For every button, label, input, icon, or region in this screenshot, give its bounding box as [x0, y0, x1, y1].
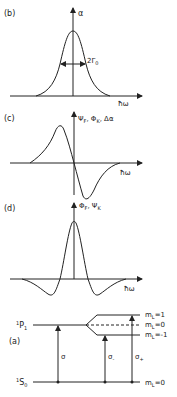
magneto-optic-figure: (b) α ħω 2Γ0 (c) ΨF, ΦK, Δα ħω (d) ΦF, Ψ…	[0, 0, 177, 397]
c-x-axis-label: ħω	[120, 169, 131, 177]
panel-d-label: (d)	[4, 204, 15, 213]
transition-sigma-origin	[57, 381, 60, 384]
transition-sigma-minus-origin	[104, 381, 107, 384]
upper-level-label: 1P1	[16, 320, 27, 331]
transition-sigma-plus-origin	[131, 381, 134, 384]
sublevel-label-plus1: mL=1	[145, 311, 165, 320]
panel-c: (c) ΨF, ΦK, Δα ħω	[4, 112, 142, 199]
lower-level-label: 1S0	[16, 377, 27, 388]
sublevel-label-minus1: mL=-1	[145, 331, 167, 340]
c-y-axis-label: ΨF, ΦK, Δα	[78, 115, 114, 124]
panel-a-label: (a)	[9, 337, 20, 346]
panel-b-label: (b)	[4, 9, 15, 18]
ground-sublevel-label: mL=0	[145, 379, 165, 388]
transition-sigma-label: σ	[61, 353, 66, 361]
panel-d: (d) ΦF, ΨK ħω	[4, 202, 142, 295]
d-x-axis-label: ħω	[124, 285, 135, 293]
sublevel-label-0: mL=0	[145, 321, 165, 330]
b-width-label: 2Γ0	[87, 57, 99, 66]
b-x-axis-label: ħω	[118, 100, 129, 108]
d-y-axis-label: ΦF, ΨK	[79, 202, 101, 211]
transition-sigma-plus-label: σ+	[135, 353, 144, 362]
panel-b: (b) α ħω 2Γ0	[4, 8, 142, 108]
b-y-axis-label: α	[78, 9, 83, 18]
c-dispersion-curve	[30, 126, 120, 199]
panel-a: (a) 1P1 mL=1 mL=0 mL=-1 1S0 mL=0 σ σ- σ+	[9, 311, 167, 388]
transition-sigma-minus-label: σ-	[108, 353, 114, 362]
panel-c-label: (c)	[4, 114, 15, 123]
